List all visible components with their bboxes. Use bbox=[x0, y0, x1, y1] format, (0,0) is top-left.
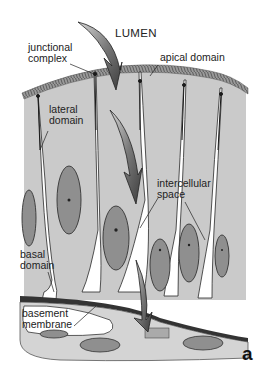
label-basement-membrane-line2: membrane bbox=[22, 319, 72, 330]
label-intercellular-space-line2: space bbox=[157, 189, 211, 200]
label-junctional-complex: junctional complex bbox=[28, 42, 72, 64]
label-apical-domain: apical domain bbox=[160, 52, 225, 63]
label-lateral-domain-line2: domain bbox=[49, 115, 83, 126]
label-basement-membrane: basement membrane bbox=[22, 308, 72, 330]
label-junctional-complex-line2: complex bbox=[28, 53, 72, 64]
label-intercellular-space: intercellular space bbox=[157, 178, 211, 200]
label-lumen: LUMEN bbox=[115, 28, 157, 39]
label-basal-domain: basal domain bbox=[20, 249, 54, 271]
label-basal-domain-line2: domain bbox=[20, 260, 54, 271]
label-lateral-domain: lateral domain bbox=[49, 104, 83, 126]
panel-label: a bbox=[242, 348, 253, 359]
